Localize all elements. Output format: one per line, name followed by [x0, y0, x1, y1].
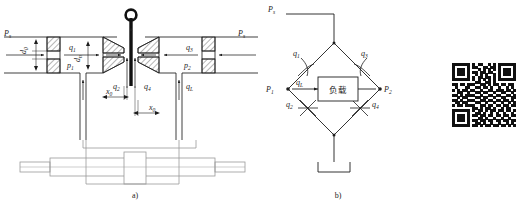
label-q4: q4: [144, 82, 151, 92]
caption-a: a): [132, 191, 139, 200]
label-q3: q3: [186, 43, 193, 53]
label-qL: qL: [186, 82, 193, 92]
label-b-p2: P2: [383, 85, 392, 95]
label-q2: q2: [113, 82, 120, 92]
panel-b-bridge-diagram: Ps P1 P2 q1 q3 q2 q4 qL 负载 b): [262, 0, 422, 209]
label-b-qL: qL: [296, 78, 303, 88]
tank-return-symbol: [318, 135, 350, 172]
label-p2: p2: [183, 61, 191, 71]
label-x0-upper: x0: [105, 87, 113, 97]
supply-line: [286, 14, 334, 43]
label-b-ps: Ps: [267, 5, 275, 15]
qr-code-canvas: [452, 63, 516, 127]
qr-code[interactable]: [452, 63, 516, 127]
label-ps-right: Ps: [237, 29, 245, 39]
caption-b: b): [335, 191, 342, 200]
label-dn: dn: [73, 55, 83, 62]
actuator-cylinder: [20, 140, 245, 184]
load-box-label: 负载: [329, 85, 347, 95]
label-q1: q1: [69, 43, 76, 53]
label-b-p1: P1: [265, 85, 274, 95]
label-b-q3: q3: [361, 49, 368, 59]
label-b-q2: q2: [286, 100, 293, 110]
panel-a-nozzle-flapper-diagram: Ps Ps d0 dn q1 p1 q3 p2 q2 q4 qL x0 x0 a…: [0, 0, 262, 209]
dimension-dn: [86, 41, 90, 70]
label-b-q1: q1: [293, 49, 300, 59]
figure-root: Ps Ps d0 dn q1 p1 q3 p2 q2 q4 qL x0 x0 a…: [0, 0, 519, 209]
label-ps-left: Ps: [3, 29, 11, 39]
label-b-q4: q4: [372, 100, 379, 110]
label-x0-lower: x0: [148, 103, 156, 113]
label-d0: d0: [19, 47, 29, 54]
